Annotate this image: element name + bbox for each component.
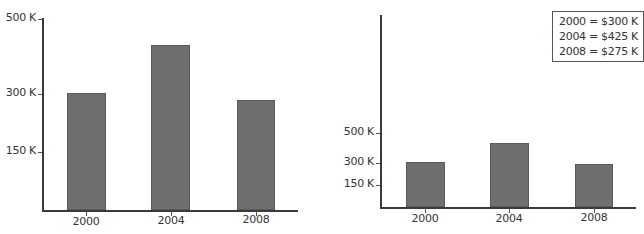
x-axis <box>380 207 636 209</box>
y-label-500: 500 K <box>334 125 374 138</box>
bar-2000 <box>406 162 445 207</box>
legend-entry-2000: 2000 = $300 K <box>559 14 638 29</box>
legend-entry-2008: 2008 = $275 K <box>559 44 638 59</box>
x-label-2000: 2000 <box>405 212 445 225</box>
y-axis <box>380 15 382 208</box>
y-label-300: 300 K <box>334 155 374 168</box>
y-tick-500 <box>376 133 380 134</box>
y-tick-300 <box>376 163 380 164</box>
bar-2008 <box>575 164 613 207</box>
y-label-150: 150 K <box>334 177 374 190</box>
x-label-2008: 2008 <box>574 211 614 224</box>
y-tick-150 <box>376 185 380 186</box>
legend-box: 2000 = $300 K 2004 = $425 K 2008 = $275 … <box>552 11 644 62</box>
x-label-2004: 2004 <box>489 212 529 225</box>
legend-entry-2004: 2004 = $425 K <box>559 29 638 44</box>
bar-2004 <box>490 143 529 207</box>
